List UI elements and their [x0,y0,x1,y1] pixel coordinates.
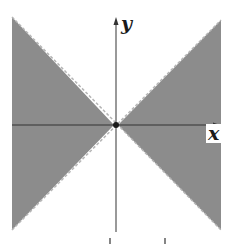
x-axis-label: x [206,124,221,143]
inequality-region-diagram: x y [0,0,233,244]
y-axis-arrow-icon [114,17,119,25]
shaded-region-left [12,17,114,230]
origin-point [113,122,119,128]
plot-canvas [0,0,233,244]
y-axis-label: y [121,14,132,33]
